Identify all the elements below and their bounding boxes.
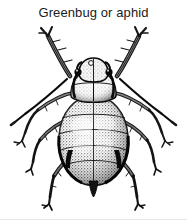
compound-eye-right [105,68,112,75]
aphid-illustration [0,0,187,220]
compound-eye-left [74,68,81,75]
cauda [89,181,98,197]
abdomen [59,96,129,185]
figure-container: Greenbug or aphid [0,0,187,220]
antenna-right [115,27,176,125]
antenna-left [11,27,72,125]
bottom-divider [0,219,187,220]
figure-caption: Greenbug or aphid [0,5,187,20]
